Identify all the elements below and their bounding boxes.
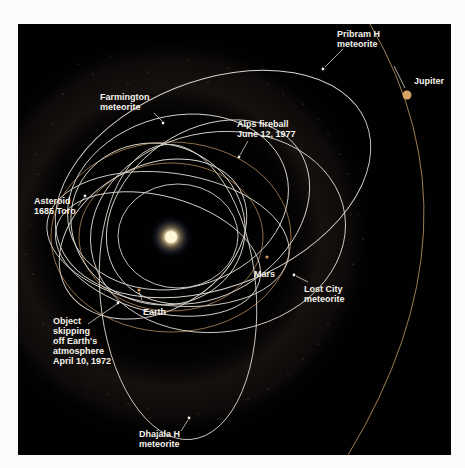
label-alps: Alps fireball June 12, 1977: [237, 119, 296, 139]
pribram-leader: [325, 49, 343, 67]
label-lost-city: Lost City meteorite: [304, 284, 345, 304]
asteroid-belt: [18, 37, 371, 437]
toro-marker: [84, 195, 87, 198]
label-grazer: Object skipping off Earth's atmosphere A…: [53, 316, 111, 366]
label-dhajala: Dhajala H meteorite: [139, 429, 180, 449]
label-toro: Asteroid 1685 Toro: [34, 196, 76, 216]
sun-core: [165, 231, 177, 243]
pribram-marker: [322, 68, 325, 71]
lost-city-marker: [293, 274, 296, 277]
farmington-marker: [162, 122, 165, 125]
label-farmington: Farmington meteorite: [100, 92, 150, 112]
grazer-marker: [117, 302, 120, 305]
label-earth: Earth: [143, 307, 166, 317]
label-mars: Mars: [254, 269, 275, 279]
label-jupiter: Jupiter: [414, 76, 444, 86]
orbit-diagram-svg: [18, 24, 451, 455]
label-pribram: Pribram H meteorite: [337, 29, 380, 49]
alps-marker: [238, 156, 241, 159]
earth-planet: [137, 288, 140, 291]
mars-planet: [265, 255, 268, 258]
solar-system-diagram: Jupiter Pribram H meteorite Farmington m…: [18, 24, 451, 455]
jupiter-planet: [403, 91, 412, 100]
dhajala-marker: [188, 417, 191, 420]
